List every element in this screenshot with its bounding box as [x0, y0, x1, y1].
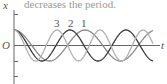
y-axis-label: x	[2, 0, 8, 11]
series-label-2: 2	[68, 17, 74, 29]
x-axis-label: t	[161, 39, 165, 51]
series-label-1: 1	[81, 17, 87, 29]
origin-label: O	[2, 39, 10, 51]
series-label-3: 3	[54, 17, 60, 29]
series-labels: 123	[54, 17, 87, 29]
oscillation-chart: x O t 123	[0, 0, 167, 84]
